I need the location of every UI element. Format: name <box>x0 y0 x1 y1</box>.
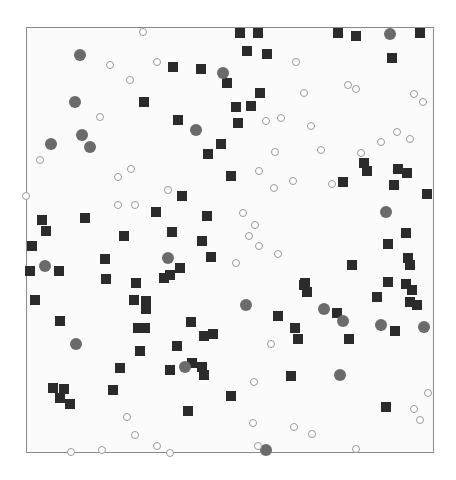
filled-circle-marker <box>217 67 229 79</box>
hollow-circle-marker <box>251 221 259 229</box>
hollow-circle-marker <box>290 423 298 431</box>
square-marker <box>175 263 185 273</box>
filled-circle-marker <box>70 338 82 350</box>
hollow-circle-marker <box>249 419 257 427</box>
square-marker <box>402 168 412 178</box>
square-marker <box>231 102 241 112</box>
hollow-circle-marker <box>292 58 300 66</box>
square-marker <box>255 88 265 98</box>
square-marker <box>235 28 245 38</box>
hollow-circle-marker <box>153 58 161 66</box>
hollow-circle-marker <box>262 117 270 125</box>
square-marker <box>199 370 209 380</box>
hollow-circle-marker <box>410 90 418 98</box>
filled-circle-marker <box>190 124 202 136</box>
square-marker <box>140 323 150 333</box>
square-marker <box>135 346 145 356</box>
filled-circle-marker <box>418 321 430 333</box>
hollow-circle-marker <box>267 340 275 348</box>
hollow-circle-marker <box>274 250 282 258</box>
square-marker <box>101 274 111 284</box>
filled-circle-marker <box>39 260 51 272</box>
hollow-circle-marker <box>126 76 134 84</box>
hollow-circle-marker <box>127 165 135 173</box>
square-marker <box>333 28 343 38</box>
hollow-circle-marker <box>164 186 172 194</box>
square-marker <box>347 260 357 270</box>
square-marker <box>293 334 303 344</box>
filled-circle-marker <box>69 96 81 108</box>
square-marker <box>167 227 177 237</box>
square-marker <box>390 326 400 336</box>
hollow-circle-marker <box>232 259 240 267</box>
square-marker <box>159 273 169 283</box>
hollow-circle-marker <box>139 28 147 36</box>
hollow-circle-marker <box>114 201 122 209</box>
hollow-circle-marker <box>131 201 139 209</box>
square-marker <box>100 254 110 264</box>
square-marker <box>208 329 218 339</box>
filled-circle-marker <box>240 299 252 311</box>
hollow-circle-marker <box>300 89 308 97</box>
filled-circle-marker <box>384 28 396 40</box>
square-marker <box>54 266 64 276</box>
square-marker <box>415 28 425 38</box>
square-marker <box>65 399 75 409</box>
square-marker <box>165 365 175 375</box>
square-marker <box>30 295 40 305</box>
square-marker <box>129 295 139 305</box>
hollow-circle-marker <box>36 156 44 164</box>
square-marker <box>206 252 216 262</box>
square-marker <box>202 211 212 221</box>
hollow-circle-marker <box>67 448 75 456</box>
square-marker <box>401 228 411 238</box>
hollow-circle-marker <box>96 113 104 121</box>
hollow-circle-marker <box>328 180 336 188</box>
square-marker <box>389 180 399 190</box>
hollow-circle-marker <box>317 146 325 154</box>
filled-circle-marker <box>318 303 330 315</box>
square-marker <box>196 64 206 74</box>
filled-circle-marker <box>84 141 96 153</box>
hollow-circle-marker <box>22 192 30 200</box>
square-marker <box>290 323 300 333</box>
square-marker <box>80 213 90 223</box>
hollow-circle-marker <box>254 442 262 450</box>
hollow-circle-marker <box>255 167 263 175</box>
square-marker <box>203 149 213 159</box>
filled-circle-marker <box>76 129 88 141</box>
square-marker <box>226 171 236 181</box>
square-marker <box>286 371 296 381</box>
hollow-circle-marker <box>131 431 139 439</box>
hollow-circle-marker <box>239 209 247 217</box>
square-marker <box>172 341 182 351</box>
filled-circle-marker <box>334 369 346 381</box>
hollow-circle-marker <box>410 405 418 413</box>
square-marker <box>383 277 393 287</box>
square-marker <box>338 177 348 187</box>
hollow-circle-marker <box>352 85 360 93</box>
square-marker <box>412 300 422 310</box>
square-marker <box>119 231 129 241</box>
square-marker <box>383 239 393 249</box>
square-marker <box>108 385 118 395</box>
hollow-circle-marker <box>406 135 414 143</box>
square-marker <box>115 363 125 373</box>
square-marker <box>37 215 47 225</box>
square-marker <box>246 101 256 111</box>
hollow-circle-marker <box>255 242 263 250</box>
square-marker <box>242 46 252 56</box>
square-marker <box>177 191 187 201</box>
filled-circle-marker <box>45 138 57 150</box>
square-marker <box>226 391 236 401</box>
square-marker <box>344 334 354 344</box>
square-marker <box>151 207 161 217</box>
hollow-circle-marker <box>352 445 360 453</box>
square-marker <box>381 402 391 412</box>
hollow-circle-marker <box>98 446 106 454</box>
hollow-circle-marker <box>123 413 131 421</box>
square-marker <box>197 236 207 246</box>
square-marker <box>405 260 415 270</box>
square-marker <box>55 393 65 403</box>
hollow-circle-marker <box>357 149 365 157</box>
